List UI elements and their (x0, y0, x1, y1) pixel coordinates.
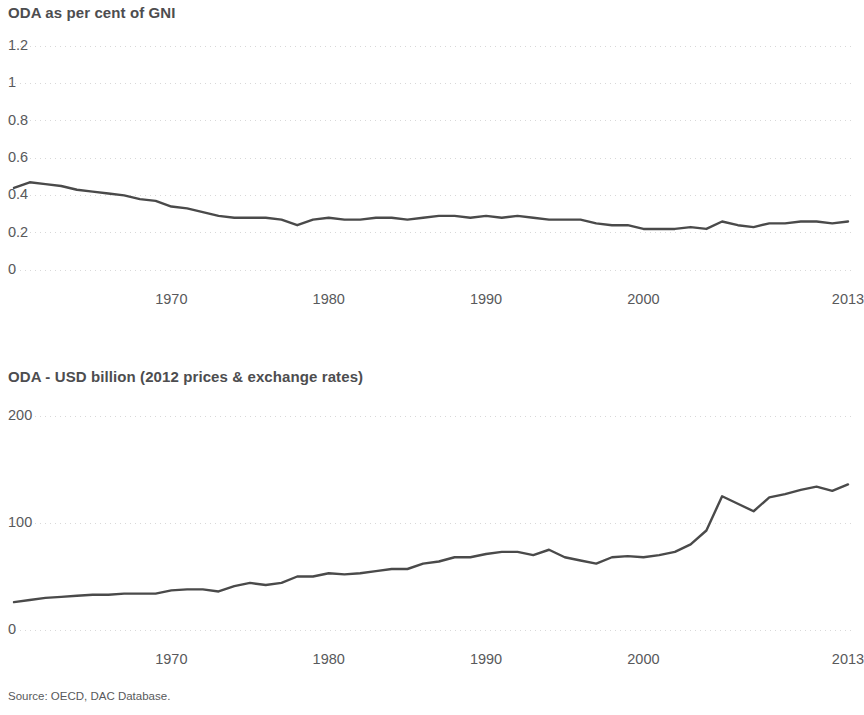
chart-1-panel: 1.210.80.60.40.20 19701980199020002013 (0, 30, 860, 320)
y-axis-tick-label: 0 (8, 262, 16, 277)
x-axis-tick-label: 2000 (627, 292, 659, 307)
y-axis-tick-label: 1 (8, 75, 16, 90)
y-axis-tick-label: 0.6 (8, 150, 28, 165)
y-axis-tick-label: 1.2 (8, 38, 28, 53)
data-series-line (14, 484, 848, 602)
x-axis-tick-label: 1970 (155, 652, 187, 667)
source-note: Source: OECD, DAC Database. (8, 690, 170, 702)
y-axis-tick-label: 0.2 (8, 225, 28, 240)
chart-1-plot (0, 30, 860, 320)
x-axis-tick-label: 1990 (470, 292, 502, 307)
y-axis-tick-label: 200 (8, 408, 32, 423)
x-axis-tick-label: 1980 (313, 652, 345, 667)
chart-2-title: ODA - USD billion (2012 prices & exchang… (8, 368, 363, 385)
x-axis-tick-label: 1990 (470, 652, 502, 667)
chart-2-plot (0, 398, 860, 673)
x-axis-tick-label: 2000 (627, 652, 659, 667)
chart-2-panel: 2001000 19701980199020002013 (0, 398, 860, 673)
x-axis-tick-label: 1970 (155, 292, 187, 307)
chart-1-title: ODA as per cent of GNI (8, 4, 176, 21)
data-series-line (14, 182, 848, 229)
y-axis-tick-label: 0.8 (8, 113, 28, 128)
y-axis-tick-label: 100 (8, 515, 32, 530)
x-axis-tick-label: 2013 (832, 652, 864, 667)
x-axis-tick-label: 2013 (832, 292, 864, 307)
y-axis-tick-label: 0.4 (8, 187, 28, 202)
x-axis-tick-label: 1980 (313, 292, 345, 307)
y-axis-tick-label: 0 (8, 622, 16, 637)
